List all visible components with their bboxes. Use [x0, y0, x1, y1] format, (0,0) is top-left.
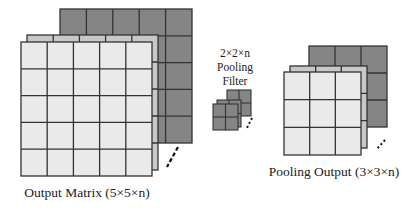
output-matrix-stack: [21, 9, 192, 176]
ellipsis-dashes: [167, 147, 178, 167]
filter-label-line-3: Filter: [223, 75, 248, 87]
pooling-output-stack: [284, 46, 387, 155]
ellipsis-dots: [246, 118, 252, 130]
pooling-output-label: Pooling Output (3×3×n): [269, 164, 400, 179]
pooling-diagram: Output Matrix (5×5×n) 2×2×n Pooling Filt…: [0, 0, 409, 209]
output-matrix-label: Output Matrix (5×5×n): [24, 185, 149, 200]
output-front-layer: [284, 72, 361, 155]
ellipsis-dots: [376, 140, 385, 150]
filter-label-line-2: Pooling: [217, 61, 253, 74]
front-layer: [21, 42, 152, 176]
pooling-filter-stack: [213, 90, 252, 130]
filter-label-line-1: 2×2×n: [220, 47, 250, 59]
